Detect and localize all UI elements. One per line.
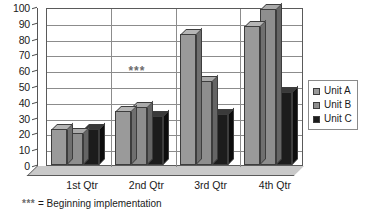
y-axis-tick-label: 20 [19, 129, 30, 140]
bar-side-face [131, 105, 137, 165]
plot-area [46, 8, 303, 166]
bar [115, 111, 131, 165]
x-axis-label: 3rd Qtr [194, 180, 227, 191]
y-axis-tick-label: 0 [24, 161, 30, 172]
category-separator [240, 9, 241, 167]
bar-side-face [163, 110, 169, 165]
bar-side-face [228, 108, 234, 165]
legend-label: Unit C [324, 114, 352, 124]
footnote: *** = Beginning implementation [22, 198, 162, 209]
category-separator [176, 9, 177, 167]
legend-swatch-icon [313, 88, 320, 95]
category-separator [111, 9, 112, 167]
legend-label: Unit A [324, 86, 351, 96]
y-axis-line [37, 8, 38, 174]
footnote-stars: *** [22, 198, 35, 209]
bar [244, 26, 260, 165]
bar-front-face [244, 26, 260, 165]
legend-item: Unit B [313, 98, 352, 112]
legend-swatch-icon [313, 102, 320, 109]
y-axis-tick-label: 70 [19, 50, 30, 61]
bar-side-face [196, 28, 202, 165]
x-axis-label: 1st Qtr [66, 180, 98, 191]
footnote-text: = Beginning implementation [35, 198, 161, 209]
y-axis-tick-label: 100 [13, 3, 30, 14]
chart-floor [27, 166, 304, 176]
bar-side-face [147, 100, 153, 165]
y-axis-tick-label: 40 [19, 98, 30, 109]
y-axis-tick-label: 60 [19, 66, 30, 77]
x-axis-label: 2nd Qtr [129, 180, 164, 191]
bar-side-face [276, 2, 282, 165]
bar-front-face [51, 129, 67, 165]
x-axis-label: 4th Qtr [259, 180, 291, 191]
x-axis-labels: 1st Qtr2nd Qtr3rd Qtr4th Qtr [46, 180, 312, 194]
bar-side-face [212, 75, 218, 165]
y-axis-tick-label: 30 [19, 113, 30, 124]
y-axis: 0102030405060708090100 [0, 8, 34, 174]
bar-side-face [260, 20, 266, 165]
legend-item: Unit C [313, 112, 352, 126]
y-axis-tick-label: 50 [19, 82, 30, 93]
legend: Unit AUnit BUnit C [308, 80, 358, 130]
legend-label: Unit B [324, 100, 351, 110]
bar-front-face [115, 111, 131, 165]
legend-item: Unit A [313, 84, 352, 98]
bar-chart: 0102030405060708090100 *** 1st Qtr2nd Qt… [0, 0, 375, 217]
y-axis-tick-label: 10 [19, 145, 30, 156]
y-axis-tick-label: 90 [19, 19, 30, 30]
bar-front-face [180, 34, 196, 165]
asterisk-annotation: *** [128, 64, 145, 78]
bar [180, 34, 196, 165]
y-axis-tick-label: 80 [19, 34, 30, 45]
legend-swatch-icon [313, 116, 320, 123]
bar [51, 129, 67, 165]
bar-side-face [292, 86, 298, 165]
